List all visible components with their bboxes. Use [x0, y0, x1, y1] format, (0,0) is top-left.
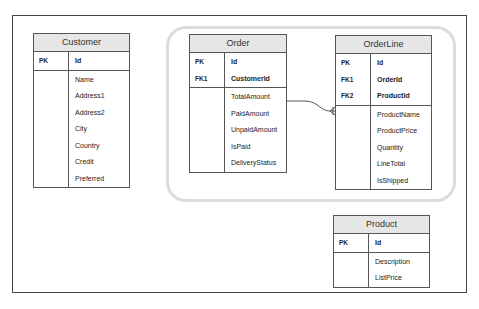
relationship-connector-order-orderline	[0, 0, 479, 309]
